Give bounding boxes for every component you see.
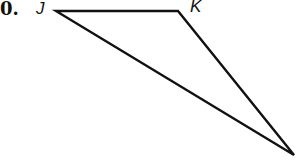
diagram-stage: 0. J K xyxy=(0,0,300,164)
triangle-jk xyxy=(56,11,294,155)
triangle-figure xyxy=(0,0,300,164)
